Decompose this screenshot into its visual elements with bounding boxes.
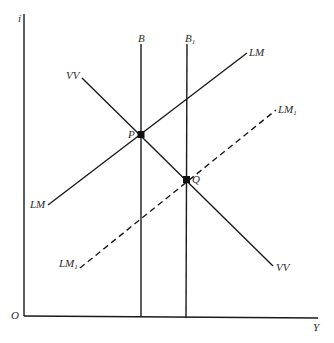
curve-LM-label-right: LM xyxy=(249,47,264,58)
curve-LM1 xyxy=(80,110,276,268)
curve-LM1-label-right: LM1 xyxy=(278,104,297,117)
curve-B1-label-main: B xyxy=(185,32,192,44)
curve-LM-label-left: LM xyxy=(30,199,45,210)
x-axis xyxy=(24,316,318,318)
curve-LM1-label-left: LM1 xyxy=(59,258,78,271)
diagram-canvas xyxy=(0,0,334,343)
curve-LM1-label-right-sub: 1 xyxy=(293,109,297,117)
x-axis-label: Y xyxy=(313,322,319,333)
curve-VV-label-left: VV xyxy=(66,70,79,81)
point-Q-label: Q xyxy=(192,174,200,185)
curve-VV-label-right: VV xyxy=(276,262,289,273)
curve-LM1-label-left-sub: 1 xyxy=(74,263,78,271)
curve-LM1-label-right-main: LM xyxy=(278,103,293,115)
origin-label: O xyxy=(11,310,19,321)
y-axis-label: i xyxy=(18,13,21,24)
point-P-marker xyxy=(138,131,145,138)
curve-B1-label: B1 xyxy=(185,33,195,46)
point-Q-marker xyxy=(183,176,190,183)
point-P-label: P xyxy=(128,129,135,140)
curve-B-label: B xyxy=(138,33,145,44)
curve-B1-label-sub: 1 xyxy=(192,38,196,46)
curve-LM1-label-left-main: LM xyxy=(59,257,74,269)
